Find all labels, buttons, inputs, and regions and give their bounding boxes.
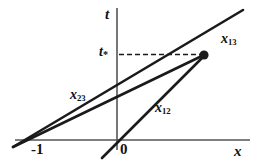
t-star-subscript: * xyxy=(103,49,108,60)
t-star-label: t* xyxy=(99,45,108,60)
time-axis-label: t xyxy=(105,7,109,22)
x-tick-minus-one: -1 xyxy=(31,142,44,157)
worldline-x23 xyxy=(13,54,206,147)
worldline-x13-label: x13 xyxy=(221,32,236,46)
worldline-x12-label-base: x xyxy=(155,100,162,115)
worldline-x12-label: x12 xyxy=(155,101,170,115)
worldline-x13-label-subscript: 13 xyxy=(228,37,236,47)
intersection-dot xyxy=(199,50,208,59)
worldline-x13-label-base: x xyxy=(221,31,228,46)
spacetime-diagram: t x t* x13 x23 x12 -1 0 xyxy=(0,0,264,167)
worldline-x23-label-subscript: 23 xyxy=(77,93,85,103)
worldline-x23-label-base: x xyxy=(70,87,77,102)
worldline-x23-label: x23 xyxy=(70,88,85,102)
worldline-x12-label-subscript: 12 xyxy=(162,106,170,116)
space-axis-label: x xyxy=(234,144,242,159)
x-tick-origin: 0 xyxy=(120,142,128,157)
worldline-x13 xyxy=(13,10,243,147)
